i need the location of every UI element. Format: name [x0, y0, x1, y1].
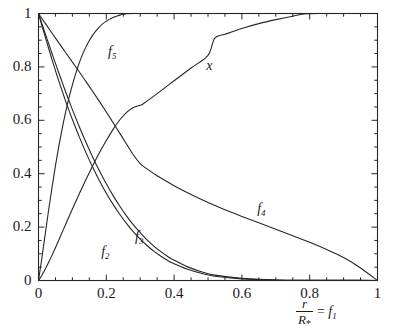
curve-f4	[39, 14, 378, 281]
curve-label-f5: f5	[108, 45, 116, 59]
figure-container: 00.20.40.60.81 00.20.40.60.81 f2f3f4f5x …	[0, 0, 397, 336]
curve-label-subscript: 2	[105, 251, 110, 261]
axis-title-equality: = f1	[317, 305, 337, 319]
fraction-denominator-subscript: *	[306, 318, 311, 329]
curve-label-subscript: 4	[261, 208, 266, 218]
curve-x	[39, 13, 378, 280]
axis-title-rhs-subscript: 1	[332, 311, 337, 321]
equals-sign: =	[317, 304, 325, 319]
x-tick-label: 0.6	[222, 286, 262, 301]
curve-label-subscript: 5	[112, 51, 117, 61]
line-chart-plot	[0, 0, 397, 336]
fraction-denominator: R*	[296, 312, 313, 326]
y-tick-label: 1	[0, 6, 32, 21]
data-curves	[39, 13, 378, 280]
axis-ticks	[39, 14, 378, 281]
ratio-fraction: r R*	[296, 297, 313, 326]
curve-label-f2: f2	[101, 245, 109, 259]
curve-label-subscript: 3	[139, 236, 144, 246]
fraction-denominator-symbol: R	[298, 312, 306, 327]
curve-label-f4: f4	[257, 202, 265, 216]
curve-label-x: x	[206, 59, 212, 73]
x-tick-label: 0.2	[86, 286, 126, 301]
y-tick-label: 0.4	[0, 166, 32, 181]
x-tick-label: 0	[19, 286, 59, 301]
x-tick-label: 1	[358, 286, 397, 301]
curve-f2	[39, 14, 378, 281]
curve-f5	[39, 13, 378, 280]
x-tick-label: 0.4	[154, 286, 194, 301]
fraction-numerator: r	[300, 297, 309, 311]
curve-label-f3: f3	[135, 230, 143, 244]
plot-frame	[39, 14, 378, 281]
y-tick-label: 0.2	[0, 219, 32, 234]
curve-label-symbol: x	[206, 58, 212, 73]
curve-f3	[39, 14, 378, 281]
y-tick-label: 0.6	[0, 112, 32, 127]
y-tick-label: 0.8	[0, 59, 32, 74]
x-axis-title: r R* = f1	[296, 297, 337, 326]
